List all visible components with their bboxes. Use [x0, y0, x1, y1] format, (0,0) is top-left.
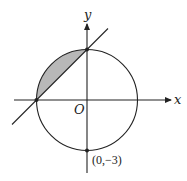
- x-axis-label: x: [174, 92, 182, 107]
- y-axis-label: y: [83, 7, 92, 22]
- point-bottom: [85, 149, 89, 153]
- point-left-intersection: [35, 98, 39, 102]
- line-y-equals-x-plus-3: [12, 29, 108, 125]
- diagram-canvas: y x O (0,−3): [0, 0, 187, 181]
- origin-label: O: [74, 102, 85, 117]
- point-top-intersection: [85, 48, 89, 52]
- point-label-bottom: (0,−3): [92, 153, 122, 167]
